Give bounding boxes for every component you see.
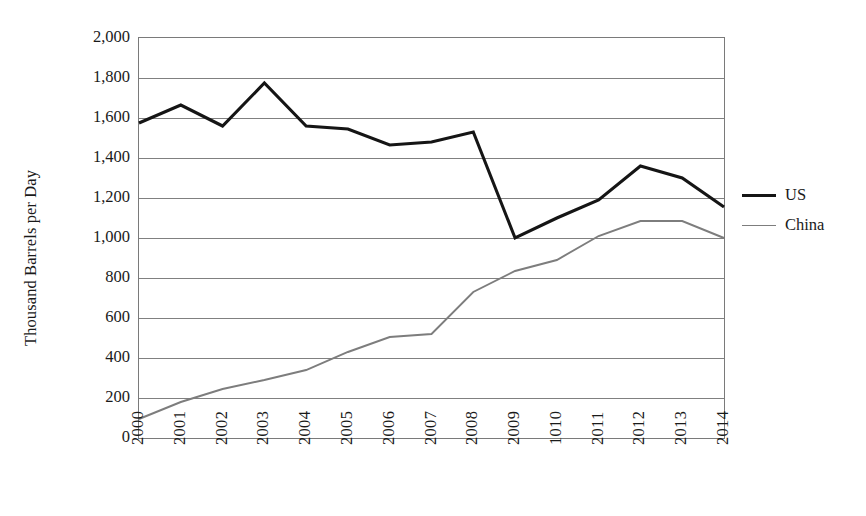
y-tick-label: 200 (52, 389, 130, 406)
x-axis-tick-labels: 2000200120022003200420052006200720082009… (138, 437, 723, 516)
legend-item-label: US (785, 187, 806, 204)
plot-area (138, 37, 725, 439)
legend-swatch-icon (742, 225, 776, 226)
y-tick-label: 800 (52, 269, 130, 286)
series-line-us (139, 83, 724, 238)
series-lines (139, 38, 724, 438)
y-tick-label: 2,000 (52, 29, 130, 46)
y-tick-label: 600 (52, 309, 130, 326)
chart-legend: USChina (742, 180, 862, 240)
series-line-china (139, 221, 724, 419)
y-tick-label: 1,200 (52, 189, 130, 206)
legend-item-label: China (785, 217, 824, 234)
y-tick-label: 1,600 (52, 109, 130, 126)
y-tick-label: 1,800 (52, 69, 130, 86)
y-tick-label: 1,400 (52, 149, 130, 166)
legend-item-us[interactable]: US (742, 180, 862, 210)
y-tick-label: 0 (52, 429, 130, 446)
chart-figure: Thousand Barrels per Day 2,0001,8001,600… (0, 0, 866, 516)
y-tick-label: 400 (52, 349, 130, 366)
legend-swatch-icon (742, 194, 776, 197)
y-tick-label: 1,000 (52, 229, 130, 246)
y-axis-tick-labels: 2,0001,8001,6001,4001,2001,0008006004002… (52, 37, 130, 437)
legend-item-china[interactable]: China (742, 210, 862, 240)
